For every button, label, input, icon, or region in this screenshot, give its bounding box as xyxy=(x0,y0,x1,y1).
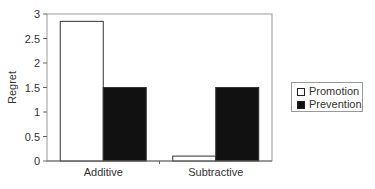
legend: Promotion Prevention xyxy=(291,82,363,112)
x-category-label: Additive xyxy=(84,166,123,178)
y-tick-label: 1 xyxy=(34,106,40,118)
y-tick-label: 0 xyxy=(34,155,40,167)
y-tick-label: 2 xyxy=(34,57,40,69)
y-tick-label: 1.5 xyxy=(25,82,40,94)
x-category-label: Subtractive xyxy=(188,166,243,178)
bar-prevention-subtractive xyxy=(216,88,259,162)
legend-item-prevention: Prevention xyxy=(297,98,362,111)
bar-promotion-subtractive xyxy=(173,156,216,161)
bar-prevention-additive xyxy=(103,88,146,162)
plot-area: 00.511.522.53RegretAdditiveSubtractive xyxy=(6,8,272,178)
y-tick-label: 3 xyxy=(34,8,40,20)
legend-label: Prevention xyxy=(309,98,362,111)
y-tick-label: 2.5 xyxy=(25,33,40,45)
legend-item-promotion: Promotion xyxy=(297,85,362,98)
y-axis-title: Regret xyxy=(6,71,18,104)
y-tick-label: 0.5 xyxy=(25,131,40,143)
legend-label: Promotion xyxy=(309,85,359,98)
promotion-swatch-icon xyxy=(297,88,305,96)
prevention-swatch-icon xyxy=(297,101,305,109)
bar-promotion-additive xyxy=(60,21,103,161)
